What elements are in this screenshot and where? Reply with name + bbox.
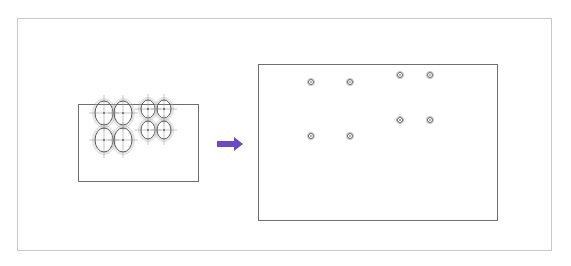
target-marker-icon xyxy=(396,116,403,123)
target-marker-icon xyxy=(346,78,353,85)
diagram-canvas xyxy=(0,0,571,266)
target-marker-icon xyxy=(307,78,314,85)
source-panel xyxy=(79,94,199,182)
target-marker-icon xyxy=(307,132,314,139)
large-hole-ellipse xyxy=(108,122,138,158)
target-marker-icon xyxy=(396,71,403,78)
target-rectangle xyxy=(259,65,498,221)
target-marker-icon xyxy=(426,71,433,78)
target-marker-icon xyxy=(426,116,433,123)
target-panel xyxy=(259,65,498,221)
right-arrow-icon xyxy=(217,137,243,151)
small-hole-ellipse xyxy=(151,115,177,145)
source-rectangle xyxy=(79,105,199,182)
target-marker-icon xyxy=(346,132,353,139)
